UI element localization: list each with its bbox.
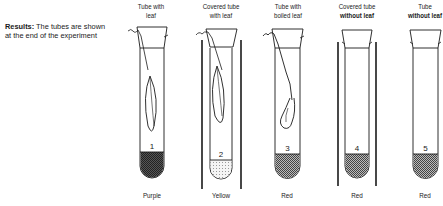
tube-5 [410, 30, 441, 179]
tube-1-number: 1 [150, 142, 155, 151]
tube-4-result: Red [336, 191, 379, 200]
tubes-diagram: 1 2 3 4 5 [0, 0, 443, 206]
tube-5-result: Red [404, 191, 443, 200]
tube-3-number: 3 [285, 144, 290, 153]
tube-4-liquid [346, 154, 369, 178]
tube-2 [196, 29, 241, 189]
tube-5-stopper [410, 30, 441, 48]
tube-5-liquid [414, 154, 438, 178]
tube-3-stopper [272, 29, 303, 48]
tube-4 [338, 30, 376, 186]
tube-3-liquid [276, 154, 300, 178]
tube-1-result: Purple [131, 191, 174, 200]
tube-3-result: Red [266, 191, 309, 200]
tube-2-stopper [206, 29, 237, 47]
tube-4-number: 4 [355, 144, 360, 153]
tube-4-stopper [342, 30, 372, 48]
tube-2-result: Yellow [200, 191, 243, 200]
tube-1-liquid [141, 152, 164, 178]
tube-3 [263, 29, 304, 179]
tube-1 [128, 27, 168, 178]
tube-5-number: 5 [423, 144, 428, 153]
tube-2-number: 2 [219, 150, 224, 159]
